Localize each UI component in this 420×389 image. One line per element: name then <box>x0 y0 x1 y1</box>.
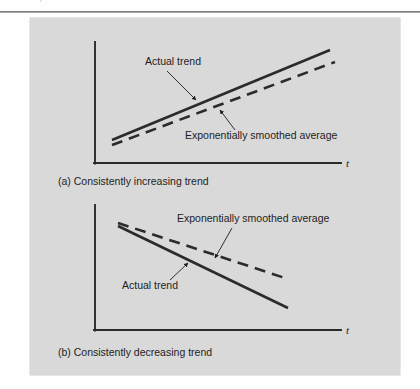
chart-b-leader-actual-trend <box>170 263 188 280</box>
chart-b-label-smoothed-average: Exponentially smoothed average <box>177 212 330 224</box>
chart-b-leader-smoothed-average <box>215 228 232 258</box>
chart-b-label-actual-trend: Actual trend <box>122 279 178 291</box>
chart-a-label-smoothed-average: Exponentially smoothed average <box>185 129 338 141</box>
chart-a-leader-actual-trend <box>167 71 196 100</box>
chart-a: t Actual trend Exponentially smoothed av… <box>58 42 350 187</box>
figure-panel: t Actual trend Exponentially smoothed av… <box>30 18 400 375</box>
page-header-text: Chapter Four <box>26 0 72 1</box>
chart-a-x-axis-label: t <box>346 157 350 169</box>
header-divider-rule <box>0 11 420 13</box>
chart-b-caption: (b) Consistently decreasing trend <box>58 346 212 358</box>
figure-page: Chapter Four t Actual trend <box>0 0 420 389</box>
chart-a-leader-smoothed-average <box>220 110 235 130</box>
page-header-strip: Chapter Four <box>0 0 420 14</box>
chart-a-caption: (a) Consistently increasing trend <box>58 175 209 187</box>
chart-b-series-actual-trend <box>118 226 288 308</box>
chart-b-series-smoothed-average <box>118 223 285 278</box>
figure-charts-svg: t Actual trend Exponentially smoothed av… <box>30 18 400 375</box>
chart-b-x-axis-label: t <box>346 324 350 336</box>
chart-a-label-actual-trend: Actual trend <box>145 55 201 67</box>
chart-b: t Exponentially smoothed average Actual … <box>58 205 350 358</box>
